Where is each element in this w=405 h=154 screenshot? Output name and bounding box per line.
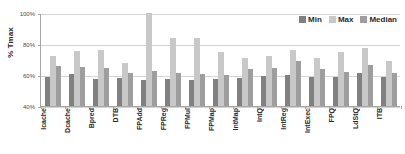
bar-max <box>170 38 175 106</box>
legend-label: Min <box>308 15 322 24</box>
bar-min <box>285 75 290 106</box>
bar-median <box>344 72 349 106</box>
bar-max <box>362 48 367 106</box>
bar-min <box>165 79 170 106</box>
bar-group <box>189 14 206 106</box>
x-axis-label-itb: ITB <box>376 108 400 119</box>
bar-max <box>50 56 55 106</box>
bar-min <box>117 78 122 106</box>
x-axis-label-fpq: FPQ <box>328 108 352 122</box>
bars-layer <box>41 14 400 106</box>
bar-max <box>122 63 127 106</box>
bar-min <box>189 80 194 106</box>
bar-min <box>261 76 266 106</box>
bar-median <box>200 74 205 106</box>
bar-group <box>261 14 278 106</box>
y-axis-tick-label: 80% <box>0 42 38 48</box>
x-axis-label-fpadd: FPAdd <box>136 108 160 130</box>
bar-max <box>98 50 103 106</box>
bar-median <box>248 69 253 106</box>
x-axis-label-fpmap: FPMap <box>208 108 232 131</box>
x-axis-label-icache: Icache <box>40 108 64 130</box>
bar-median <box>152 71 157 106</box>
bar-group <box>69 14 86 106</box>
bar-median <box>176 73 181 106</box>
bar-median <box>392 73 397 106</box>
x-axis-label-intreg: IntReg <box>280 108 304 130</box>
bar-group <box>285 14 302 106</box>
x-axis-label-intexec: IntExec <box>304 108 328 133</box>
bar-median <box>56 66 61 106</box>
bar-max <box>290 50 295 106</box>
x-axis-label-dcache: Dcache <box>64 108 88 133</box>
y-axis-tick-label: 100% <box>0 11 38 17</box>
chart-legend: MinMaxMedian <box>299 15 397 24</box>
bar-median <box>224 75 229 106</box>
x-axis-label-dtb: DTB <box>112 108 136 122</box>
bar-group <box>141 14 158 106</box>
bar-median <box>320 69 325 106</box>
x-axis-label-fpmul: FPMul <box>184 108 208 129</box>
bar-min <box>333 77 338 106</box>
bar-group <box>237 14 254 106</box>
x-axis-label-intq: IntQ <box>256 108 280 122</box>
bar-min <box>237 78 242 106</box>
bar-group <box>117 14 134 106</box>
bar-max <box>194 38 199 106</box>
bar-chart-figure: % Tmax 40%60%80%100% IcacheDcacheBpredDT… <box>0 0 405 154</box>
x-axis-tick-mark <box>401 106 402 109</box>
bar-max <box>146 13 151 106</box>
legend-item-max: Max <box>329 15 354 24</box>
bar-group <box>333 14 350 106</box>
y-axis-tick-label: 60% <box>0 73 38 79</box>
x-axis-label-ldstq: LdStQ <box>352 108 376 129</box>
bar-max <box>314 58 319 106</box>
bar-max <box>74 51 79 106</box>
x-axis-label-intmap: IntMap <box>232 108 256 131</box>
bar-group <box>381 14 398 106</box>
bar-min <box>45 77 50 106</box>
bar-median <box>296 61 301 106</box>
bar-max <box>386 61 391 106</box>
legend-swatch-icon <box>360 16 367 23</box>
bar-max <box>218 52 223 106</box>
x-axis-tick-labels: IcacheDcacheBpredDTBFPAddFPRegFPMulFPMap… <box>40 108 400 154</box>
bar-min <box>69 74 74 106</box>
bar-group <box>93 14 110 106</box>
bar-median <box>80 67 85 106</box>
bar-max <box>338 52 343 106</box>
y-axis-tick-label: 40% <box>0 104 38 110</box>
bar-min <box>141 80 146 107</box>
legend-item-min: Min <box>299 15 322 24</box>
bar-group <box>165 14 182 106</box>
legend-label: Max <box>338 15 354 24</box>
bar-max <box>242 58 247 106</box>
bar-median <box>368 65 373 106</box>
bar-min <box>309 77 314 106</box>
legend-swatch-icon <box>329 16 336 23</box>
bar-min <box>213 79 218 106</box>
bar-group <box>309 14 326 106</box>
bar-median <box>128 73 133 106</box>
bar-group <box>45 14 62 106</box>
bar-median <box>104 68 109 106</box>
bar-min <box>93 79 98 106</box>
plot-area <box>40 14 400 107</box>
legend-item-median: Median <box>360 15 397 24</box>
x-axis-label-fpreg: FPReg <box>160 108 184 130</box>
bar-group <box>357 14 374 106</box>
bar-group <box>213 14 230 106</box>
bar-max <box>266 56 271 106</box>
bar-min <box>381 77 386 106</box>
x-axis-label-bpred: Bpred <box>88 108 112 128</box>
legend-label: Median <box>369 15 397 24</box>
legend-swatch-icon <box>299 16 306 23</box>
bar-min <box>357 73 362 106</box>
bar-median <box>272 68 277 106</box>
